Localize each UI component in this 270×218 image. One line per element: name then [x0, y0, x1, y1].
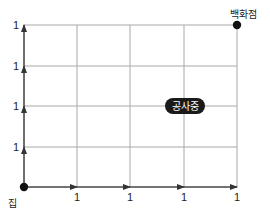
construction-badge: 공사중	[165, 98, 205, 114]
construction-label: 공사중	[172, 101, 199, 112]
home-point-icon	[20, 183, 28, 191]
grid-route-diagram: 1 1 1 1 1 1 1 1 집 백화점 공사중	[0, 0, 270, 218]
department-store-point-icon	[233, 21, 241, 29]
y-segment-label: 1	[13, 141, 19, 153]
home-label: 집	[8, 198, 17, 209]
grid-lines	[24, 25, 237, 187]
y-segment-label: 1	[13, 100, 19, 112]
x-segment-label: 1	[234, 191, 240, 203]
x-segment-labels: 1 1 1 1	[74, 191, 240, 203]
x-segment-label: 1	[181, 191, 187, 203]
x-segment-label: 1	[127, 191, 133, 203]
x-segment-label: 1	[74, 191, 80, 203]
department-store-label: 백화점	[230, 9, 257, 20]
y-segment-labels: 1 1 1 1	[13, 19, 19, 153]
y-segment-label: 1	[13, 19, 19, 31]
y-segment-label: 1	[13, 60, 19, 72]
